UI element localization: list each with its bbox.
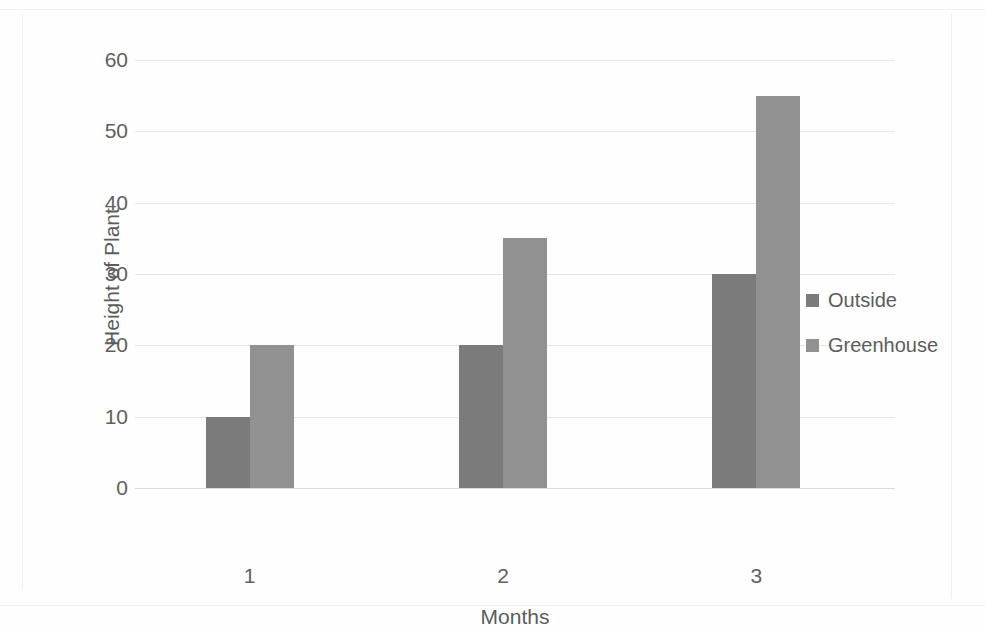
legend-item-greenhouse[interactable]: Greenhouse — [806, 323, 976, 368]
legend-item-outside[interactable]: Outside — [806, 278, 976, 323]
chart-legend: OutsideGreenhouse — [806, 278, 976, 368]
bar-outside-2[interactable] — [459, 345, 503, 488]
bar-greenhouse-1[interactable] — [250, 345, 294, 488]
legend-label: Greenhouse — [828, 334, 938, 357]
y-axis-tick-60: 60 — [68, 49, 128, 70]
y-axis-title: Height of Plant — [100, 182, 124, 372]
legend-swatch-icon — [806, 294, 819, 307]
y-axis-title-container: Height of Plant — [62, 90, 92, 440]
gridline-0 — [135, 488, 895, 489]
bar-group — [459, 60, 547, 488]
bar-outside-1[interactable] — [206, 417, 250, 488]
bar-greenhouse-2[interactable] — [503, 238, 547, 488]
bar-group — [712, 60, 800, 488]
y-axis-tick-0: 0 — [68, 477, 128, 498]
x-axis-tick-3: 3 — [696, 564, 816, 588]
x-axis-tick-2: 2 — [443, 564, 563, 588]
bar-group — [206, 60, 294, 488]
legend-label: Outside — [828, 289, 897, 312]
plot-area: 123 Months — [135, 60, 895, 488]
x-axis-tick-1: 1 — [190, 564, 310, 588]
bar-outside-3[interactable] — [712, 274, 756, 488]
x-axis-title: Months — [135, 605, 895, 629]
scan-border-top — [0, 9, 985, 10]
chart-page: 0102030405060 Height of Plant 123 Months… — [0, 0, 985, 632]
scan-border-left — [22, 14, 23, 590]
legend-swatch-icon — [806, 339, 819, 352]
bar-greenhouse-3[interactable] — [756, 96, 800, 488]
